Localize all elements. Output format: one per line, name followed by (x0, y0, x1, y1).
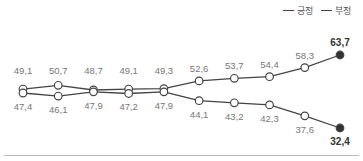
data-label: 44,1 (190, 109, 209, 120)
data-point-marker (336, 51, 344, 59)
data-label: 37,6 (296, 124, 315, 135)
data-label: 50,7 (49, 65, 68, 76)
series-negative: 47,446,147,947,247,944,143,242,337,632,4 (14, 88, 350, 147)
data-point-marker (19, 89, 27, 97)
series-line (23, 55, 340, 90)
series-positive: 49,150,748,749,149,352,653,754,458,363,7 (14, 37, 350, 94)
data-label: 43,2 (225, 111, 244, 122)
data-label: 48,7 (84, 65, 103, 76)
data-label: 49,1 (119, 65, 138, 76)
data-point-marker (336, 124, 344, 132)
data-label: 32,4 (330, 136, 350, 147)
data-label: 63,7 (330, 37, 350, 48)
data-label: 53,7 (225, 60, 244, 71)
series-line (23, 92, 340, 128)
line-chart: 49,150,748,749,149,352,653,754,458,363,7… (0, 0, 363, 161)
data-label: 47,2 (119, 101, 138, 112)
data-point-marker (195, 77, 203, 85)
data-label: 46,1 (49, 104, 68, 115)
legend: 긍정 부정 (283, 4, 351, 17)
legend-item-positive: 긍정 (283, 4, 313, 17)
legend-label: 부정 (335, 4, 351, 17)
data-label: 49,1 (14, 65, 33, 76)
data-label: 47,9 (84, 100, 103, 111)
data-point-marker (301, 112, 309, 120)
legend-label: 긍정 (297, 4, 313, 17)
data-point-marker (54, 92, 62, 100)
data-point-marker (266, 101, 274, 109)
data-label: 42,3 (260, 113, 279, 124)
data-point-marker (301, 64, 309, 72)
data-point-marker (266, 73, 274, 81)
legend-line-icon (283, 10, 294, 12)
data-label: 47,4 (14, 101, 33, 112)
data-label: 54,4 (260, 59, 279, 70)
data-label: 58,3 (296, 50, 315, 61)
data-point-marker (90, 88, 98, 96)
data-label: 52,6 (190, 63, 209, 74)
data-label: 49,3 (155, 65, 174, 76)
data-point-marker (54, 82, 62, 90)
legend-line-icon (321, 10, 332, 12)
bottom-rule (4, 155, 359, 156)
legend-item-negative: 부정 (321, 4, 351, 17)
data-point-marker (231, 75, 239, 83)
data-label: 47,9 (155, 100, 174, 111)
data-point-marker (195, 97, 203, 105)
data-point-marker (160, 88, 168, 96)
data-point-marker (125, 90, 133, 98)
data-point-marker (231, 99, 239, 107)
